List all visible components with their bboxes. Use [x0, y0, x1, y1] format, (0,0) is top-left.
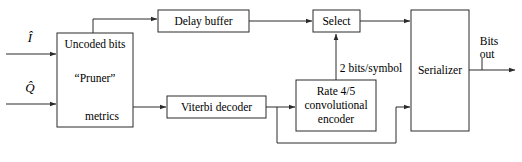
encoder-label-convolutional: convolutional: [304, 99, 367, 111]
block-diagram-canvas: Uncoded bits “Pruner” metrics Delay buff…: [0, 0, 522, 162]
output-label-bits: Bits: [480, 35, 499, 47]
pruner-label-uncoded-bits: Uncoded bits: [64, 38, 126, 50]
viterbi-decoder-label: Viterbi decoder: [181, 101, 252, 113]
block-diagram: Uncoded bits “Pruner” metrics Delay buff…: [0, 0, 522, 162]
delay-buffer-label: Delay buffer: [174, 15, 232, 28]
wire-pruner-to-delay-buffer: [93, 19, 157, 33]
select-label: Select: [322, 15, 351, 27]
pruner-label-pruner: “Pruner”: [75, 72, 116, 84]
encoder-label-rate: Rate 4/5: [317, 85, 356, 97]
pruner-label-metrics: metrics: [85, 110, 119, 122]
encoder-label-encoder: encoder: [318, 113, 355, 125]
wire-serializer-to-output: [482, 58, 515, 70]
output-label-out: out: [480, 48, 496, 60]
input-ihat-label: Î: [27, 30, 34, 45]
serializer-label: Serializer: [418, 64, 462, 76]
rate-2-bits-per-symbol-label: 2 bits/symbol: [340, 62, 402, 75]
input-qhat-label: Q̂: [25, 80, 35, 95]
